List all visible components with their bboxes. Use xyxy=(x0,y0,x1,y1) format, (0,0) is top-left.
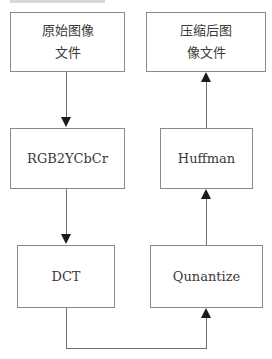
cropped-text-fragment xyxy=(10,0,105,3)
node-source-image-file: 原始图像 文件 xyxy=(10,12,125,72)
edge-rgb-dct xyxy=(66,189,67,235)
node-label: 文件 xyxy=(42,42,94,64)
node-label: DCT xyxy=(51,266,80,288)
arrow-up-icon xyxy=(201,189,211,199)
node-label: 像文件 xyxy=(180,42,232,64)
node-label: Huffman xyxy=(178,148,235,170)
arrow-down-icon xyxy=(61,234,71,244)
edge-dct-quant-horizontal xyxy=(66,348,207,349)
arrow-up-icon xyxy=(201,308,211,318)
node-dct: DCT xyxy=(17,245,115,308)
edge-dct-quant-down xyxy=(66,308,67,349)
arrow-down-icon xyxy=(61,117,71,127)
node-label: Qunantize xyxy=(173,266,240,288)
node-quantize: Qunantize xyxy=(150,245,263,308)
node-huffman: Huffman xyxy=(160,128,253,189)
node-label: RGB2YCbCr xyxy=(27,148,108,170)
node-label: 原始图像 xyxy=(42,20,94,42)
edge-huffman-output xyxy=(206,82,207,128)
node-compressed-image-file: 压缩后图 像文件 xyxy=(146,12,266,72)
edge-quant-huffman xyxy=(206,199,207,245)
node-rgb2ycbcr: RGB2YCbCr xyxy=(10,128,125,189)
arrow-up-icon xyxy=(201,72,211,82)
node-label: 压缩后图 xyxy=(180,20,232,42)
edge-src-rgb xyxy=(66,72,67,118)
edge-dct-quant-up xyxy=(206,318,207,349)
